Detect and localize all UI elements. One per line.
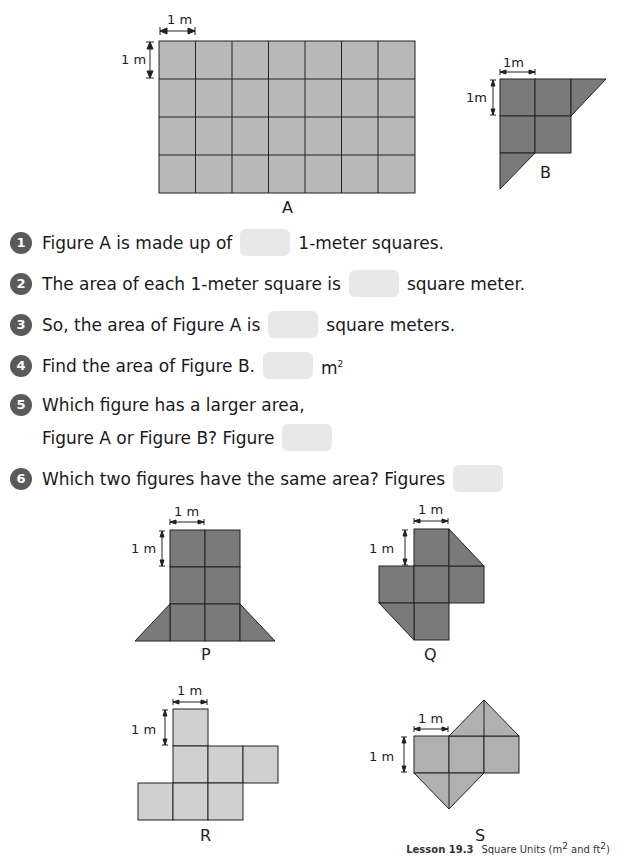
lesson-number: Lesson 19.3: [406, 844, 473, 855]
figure-s-dim-vertical: 1 m: [369, 749, 394, 764]
page-footer: Lesson 19.3Square Units (m2 and ft2): [406, 841, 610, 855]
lesson-title: Square Units (m2 and ft2): [481, 844, 610, 855]
figure-s-shape: [0, 0, 618, 859]
figure-s-dim-horizontal: 1 m: [418, 711, 443, 726]
